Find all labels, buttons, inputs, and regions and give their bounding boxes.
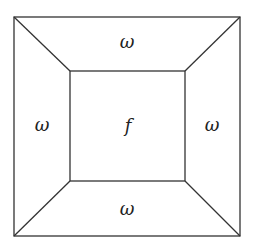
diagonal-bottom-left — [14, 181, 70, 236]
diagonal-bottom-right — [185, 181, 240, 236]
label-center: f — [123, 115, 135, 136]
label-bottom: ω — [120, 198, 135, 219]
label-left: ω — [35, 114, 50, 135]
label-top: ω — [120, 31, 135, 52]
frame-diagram: ω ω f ω ω — [0, 0, 259, 250]
diagonal-top-left — [14, 17, 70, 71]
label-right: ω — [205, 114, 220, 135]
diagonal-top-right — [185, 17, 240, 71]
